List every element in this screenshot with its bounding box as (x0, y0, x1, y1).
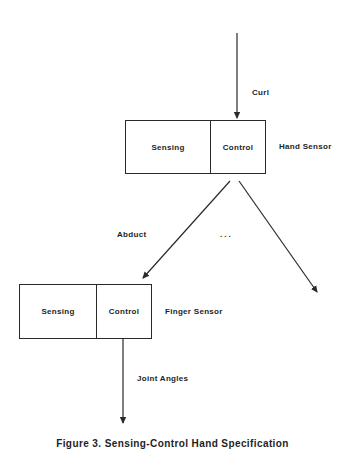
other-branch-arrow (239, 181, 317, 292)
ellipsis-label: ... (220, 230, 233, 239)
finger-control-cell: Control (97, 285, 151, 338)
curl-label: Curl (252, 88, 269, 97)
finger-sensor-label: Finger Sensor (165, 307, 223, 316)
joint-angles-label: Joint Angles (137, 374, 188, 383)
figure-caption: Figure 3. Sensing-Control Hand Specifica… (0, 438, 345, 449)
abduct-label: Abduct (117, 230, 146, 239)
hand-control-cell: Control (211, 121, 265, 173)
abduct-arrow (143, 181, 230, 278)
finger-sensing-cell: Sensing (20, 285, 97, 338)
hand-sensing-cell: Sensing (126, 121, 211, 173)
hand-sensor-label: Hand Sensor (279, 142, 332, 151)
hand-sensor-box: Sensing Control (125, 120, 266, 174)
finger-sensor-box: Sensing Control (19, 284, 152, 339)
